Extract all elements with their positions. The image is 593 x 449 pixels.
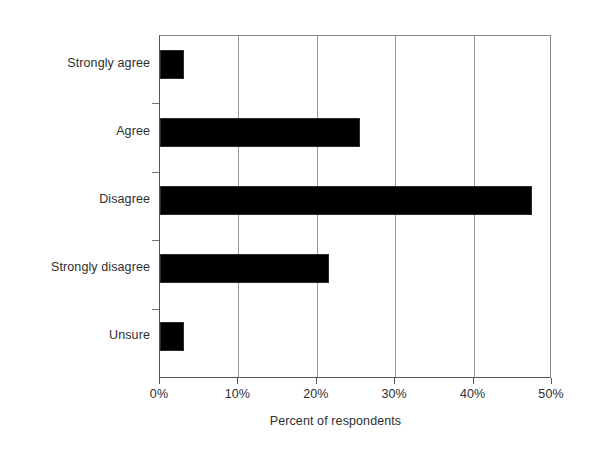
category-label-text: Strongly agree	[67, 56, 150, 70]
category-label-disagree: Disagree	[0, 192, 150, 206]
category-label-text: Disagree	[99, 192, 150, 206]
plot-area	[159, 35, 551, 378]
x-axis-tick-10	[237, 378, 238, 384]
x-axis-label-20: 20%	[286, 387, 346, 401]
y-axis-tick	[152, 172, 159, 173]
category-label-text: Agree	[116, 124, 150, 138]
bar-disagree[interactable]	[160, 186, 532, 215]
x-axis-tick-0	[159, 378, 160, 384]
x-axis-label-50: 50%	[521, 387, 581, 401]
x-axis-label-40: 40%	[443, 387, 503, 401]
category-label-strongly-disagree: Strongly disagree	[0, 260, 150, 274]
x-axis-title-text: Percent of respondents	[270, 414, 401, 428]
category-label-unsure: Unsure	[0, 328, 150, 342]
x-axis-tick-50	[551, 378, 552, 384]
category-label-strongly-agree: Strongly agree	[0, 56, 150, 70]
y-axis-tick	[152, 103, 159, 104]
x-axis-tick-20	[316, 378, 317, 384]
x-axis-label-0: 0%	[129, 387, 189, 401]
y-axis-tick	[152, 309, 159, 310]
bar-strongly-agree[interactable]	[160, 50, 184, 79]
x-axis-label-30: 30%	[364, 387, 424, 401]
category-label-text: Unsure	[109, 328, 150, 342]
x-axis-tick-40	[473, 378, 474, 384]
bar-chart-figure: Strongly agree Agree Disagree Strongly d…	[0, 0, 593, 449]
bar-strongly-disagree[interactable]	[160, 254, 329, 283]
category-label-agree: Agree	[0, 124, 150, 138]
bar-agree[interactable]	[160, 118, 360, 147]
x-axis-tick-30	[394, 378, 395, 384]
bar-unsure[interactable]	[160, 322, 184, 351]
y-axis-tick	[152, 240, 159, 241]
x-axis-title: Percent of respondents	[0, 414, 593, 428]
x-axis-label-10: 10%	[207, 387, 267, 401]
category-label-text: Strongly disagree	[51, 260, 150, 274]
